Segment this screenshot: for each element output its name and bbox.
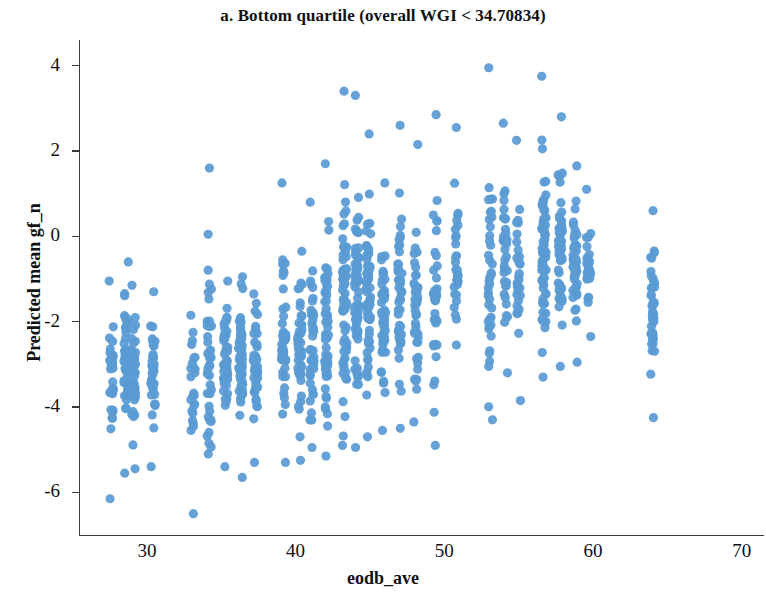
scatter-point	[381, 388, 390, 397]
scatter-point	[293, 363, 302, 372]
scatter-point	[105, 333, 114, 342]
scatter-point	[297, 312, 306, 321]
scatter-point	[205, 322, 214, 331]
scatter-point	[127, 410, 136, 419]
y-axis-tick	[72, 321, 80, 322]
scatter-point	[362, 287, 371, 296]
scatter-point	[582, 233, 591, 242]
scatter-point	[362, 300, 371, 309]
scatter-point	[555, 214, 564, 223]
scatter-point	[363, 250, 372, 259]
scatter-point	[363, 432, 372, 441]
scatter-point	[340, 412, 349, 421]
scatter-point	[556, 198, 565, 207]
scatter-point	[363, 355, 372, 364]
scatter-point	[503, 266, 512, 275]
scatter-point	[131, 464, 140, 473]
scatter-point	[222, 397, 231, 406]
scatter-point	[412, 248, 421, 257]
scatter-point	[512, 309, 521, 318]
scatter-point	[411, 271, 420, 280]
scatter-point	[252, 397, 261, 406]
scatter-point	[582, 242, 591, 251]
scatter-point	[395, 354, 404, 363]
scatter-point	[502, 311, 511, 320]
scatter-point	[558, 320, 567, 329]
scatter-point	[380, 334, 389, 343]
scatter-point	[568, 293, 577, 302]
scatter-point	[253, 382, 262, 391]
scatter-point	[321, 365, 330, 374]
scatter-point	[487, 331, 496, 340]
scatter-point	[189, 401, 198, 410]
scatter-point	[150, 401, 159, 410]
scatter-point	[649, 413, 658, 422]
scatter-point	[295, 432, 304, 441]
scatter-point	[203, 369, 212, 378]
scatter-point	[514, 329, 523, 338]
scatter-point	[205, 361, 214, 370]
scatter-point	[432, 273, 441, 282]
scatter-point	[296, 278, 305, 287]
scatter-point	[294, 344, 303, 353]
scatter-point	[205, 280, 214, 289]
scatter-point	[365, 315, 374, 324]
scatter-point	[648, 307, 657, 316]
scatter-point	[338, 221, 347, 230]
scatter-point	[570, 231, 579, 240]
scatter-point	[365, 326, 374, 335]
scatter-point	[205, 163, 214, 172]
scatter-point	[353, 253, 362, 262]
scatter-point	[105, 494, 114, 503]
scatter-point	[499, 205, 508, 214]
scatter-point	[394, 276, 403, 285]
scatter-point	[148, 357, 157, 366]
scatter-point	[412, 338, 421, 347]
scatter-point	[237, 318, 246, 327]
scatter-point	[396, 296, 405, 305]
scatter-point	[363, 220, 372, 229]
scatter-point	[379, 377, 388, 386]
scatter-point	[500, 290, 509, 299]
scatter-point	[410, 295, 419, 304]
scatter-point	[430, 316, 439, 325]
scatter-point	[278, 409, 287, 418]
scatter-point	[394, 333, 403, 342]
scatter-point	[488, 259, 497, 268]
scatter-point	[107, 355, 116, 364]
scatter-point	[541, 220, 550, 229]
scatter-point	[127, 281, 136, 290]
scatter-point	[148, 334, 157, 343]
scatter-point	[539, 245, 548, 254]
scatter-point	[354, 371, 363, 380]
scatter-point	[648, 206, 657, 215]
scatter-point	[119, 357, 128, 366]
scatter-point	[571, 196, 580, 205]
scatter-point	[395, 321, 404, 330]
scatter-point	[431, 352, 440, 361]
y-axis-tick-label: 4	[14, 55, 60, 74]
scatter-point	[364, 339, 373, 348]
scatter-point	[204, 428, 213, 437]
scatter-point	[569, 218, 578, 227]
scatter-point	[339, 87, 348, 96]
scatter-point	[432, 217, 441, 226]
chart-title: a. Bottom quartile (overall WGI < 34.708…	[0, 6, 766, 26]
scatter-point	[512, 237, 521, 246]
scatter-point	[204, 294, 213, 303]
scatter-point	[570, 266, 579, 275]
scatter-point	[362, 370, 371, 379]
scatter-point	[484, 63, 493, 72]
scatter-point	[488, 194, 497, 203]
scatter-point	[351, 315, 360, 324]
scatter-point	[452, 315, 461, 324]
scatter-point	[557, 294, 566, 303]
scatter-plot-figure: a. Bottom quartile (overall WGI < 34.708…	[0, 0, 766, 599]
scatter-point	[128, 387, 137, 396]
scatter-point	[147, 390, 156, 399]
scatter-point	[238, 284, 247, 293]
x-axis-title: eodb_ave	[0, 568, 766, 589]
scatter-point	[205, 389, 214, 398]
scatter-point	[649, 277, 658, 286]
scatter-point	[554, 265, 563, 274]
